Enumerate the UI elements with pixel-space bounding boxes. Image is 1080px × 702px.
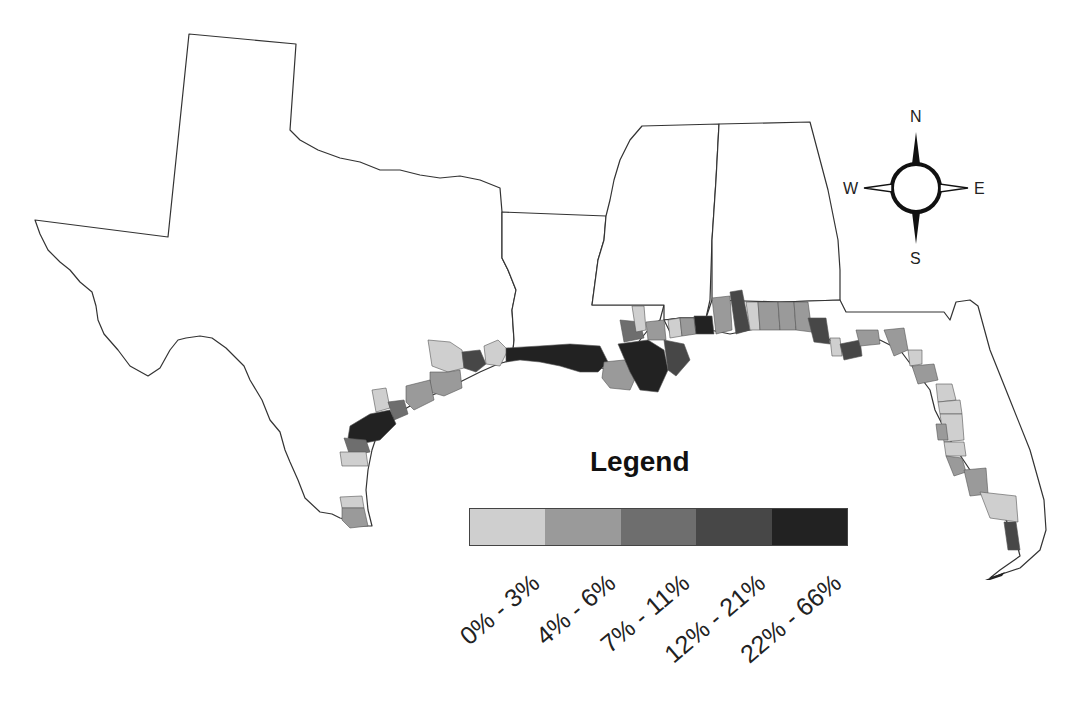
legend-swatch-4 [696,509,771,545]
compass-west-label: W [843,180,858,198]
legend-swatch-2 [545,509,620,545]
state-texas [35,34,516,526]
compass-east-label: E [974,180,985,198]
legend-swatch-1 [470,509,545,545]
compass-north-label: N [910,108,922,126]
compass-rose-icon [864,132,968,244]
state-alabama [712,122,840,302]
legend-swatch-5 [772,509,847,545]
legend-color-bar [469,508,848,546]
legend-swatch-3 [621,509,696,545]
florida-keys [985,572,1005,580]
legend-title: Legend [590,446,690,478]
state-mississippi [592,124,719,320]
gulf-coast-map [0,0,1080,702]
compass-south-label: S [910,250,921,268]
